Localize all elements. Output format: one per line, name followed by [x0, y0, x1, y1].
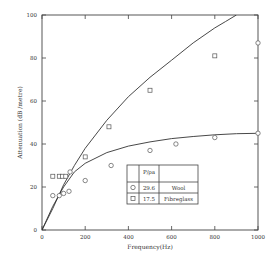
fibreglass-data-point [51, 174, 55, 178]
legend-value: 29.6 [143, 185, 156, 191]
wool-data-point [68, 170, 72, 174]
fibreglass-data-point [148, 88, 152, 92]
wool-data-point [109, 163, 113, 167]
wool-data-point [174, 142, 178, 146]
wool-data-point [67, 189, 71, 193]
legend-value: 17.5 [143, 196, 156, 202]
x-tick-label: 1000 [251, 234, 265, 240]
x-tick-label: 400 [123, 234, 134, 240]
x-axis-title: Frequency(Hz) [127, 243, 173, 251]
wool-data-point [148, 148, 152, 152]
legend-square-icon [131, 197, 135, 201]
wool-data-point [57, 193, 61, 197]
fibreglass-data-point [64, 174, 68, 178]
plot-area: 02004006008001000020406080100Frequency(H… [16, 12, 265, 251]
wool-data-point [256, 131, 260, 135]
legend-header: P/ρa [143, 169, 156, 176]
fibreglass-data-point [83, 155, 87, 159]
y-axis-title: Attenuation (dB /metre) [16, 86, 23, 160]
legend-circle-icon [131, 185, 135, 189]
y-tick-label: 80 [30, 55, 37, 61]
wool-data-point [213, 135, 217, 139]
x-tick-label: 200 [80, 234, 91, 240]
wool-data-point [51, 193, 55, 197]
y-tick-label: 60 [30, 98, 37, 104]
fibreglass-data-point [107, 125, 111, 129]
y-tick-label: 0 [34, 227, 38, 233]
attenuation-chart: 02004006008001000020406080100Frequency(H… [0, 0, 275, 261]
y-tick-label: 20 [30, 184, 37, 190]
y-tick-label: 100 [27, 12, 38, 18]
wool-data-point [256, 41, 260, 45]
legend-label: Wool [172, 185, 186, 191]
y-tick-label: 40 [30, 141, 37, 147]
x-tick-label: 800 [210, 234, 221, 240]
fibreglass-data-point [213, 54, 217, 58]
x-tick-label: 0 [40, 234, 44, 240]
x-tick-label: 600 [166, 234, 177, 240]
wool-data-point [83, 178, 87, 182]
legend-label: Fibreglass [164, 196, 193, 203]
wool-data-point [61, 191, 65, 195]
